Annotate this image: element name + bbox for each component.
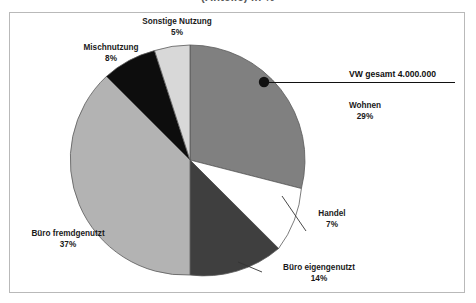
label-handel-value: 7%	[302, 220, 362, 231]
label-buero-fremdgenutzt-name: Büro fremdgenutzt	[31, 229, 104, 238]
label-mischnutzung-value: 8%	[61, 54, 161, 65]
label-mischnutzung-name: Mischnutzung	[83, 43, 138, 52]
label-sonstige-nutzung-value: 5%	[117, 28, 237, 39]
label-buero-eigengenutzt-value: 14%	[264, 274, 374, 285]
label-handel: Handel 7%	[302, 209, 362, 230]
label-buero-fremdgenutzt: Büro fremdgenutzt 37%	[13, 229, 123, 250]
label-handel-name: Handel	[318, 209, 345, 218]
label-sonstige-nutzung: Sonstige Nutzung 5%	[117, 17, 237, 38]
label-mischnutzung: Mischnutzung 8%	[61, 43, 161, 64]
label-sonstige-nutzung-name: Sonstige Nutzung	[142, 17, 212, 26]
label-buero-eigengenutzt: Büro eigengenutzt 14%	[264, 263, 374, 284]
callout-label: VW gesamt 4.000.000	[349, 69, 436, 79]
chart-page: (Anteile) in % VW gesamt 4.000.000 Sonst…	[0, 0, 476, 303]
label-wohnen-value: 29%	[325, 112, 405, 123]
label-wohnen-name: Wohnen	[349, 101, 381, 110]
label-buero-fremdgenutzt-value: 37%	[13, 240, 123, 251]
label-wohnen: Wohnen 29%	[325, 101, 405, 122]
label-buero-eigengenutzt-name: Büro eigengenutzt	[283, 263, 355, 272]
callout-dot-marker	[259, 77, 269, 87]
